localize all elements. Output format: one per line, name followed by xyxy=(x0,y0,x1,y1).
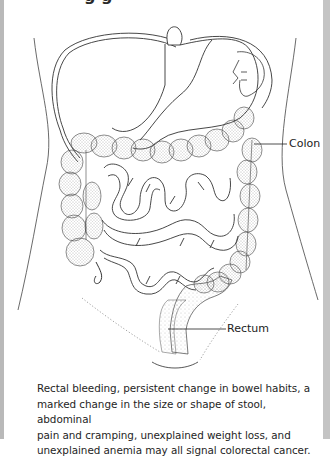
rectum-label: Rectum xyxy=(227,323,269,334)
caption-line: unexplained anemia may all signal colore… xyxy=(37,443,321,459)
digestive-system-illustration xyxy=(4,0,323,372)
pelvic-floor-curve xyxy=(152,362,198,368)
caption-line: Rectal bleeding, persistent change in bo… xyxy=(37,381,321,397)
page-frame-right-border xyxy=(323,0,330,439)
sigmoid-colon xyxy=(170,276,232,354)
gallbladder xyxy=(167,27,182,45)
transverse-colon xyxy=(71,107,254,163)
ascending-colon xyxy=(59,150,103,266)
appendix xyxy=(94,262,101,284)
descending-colon xyxy=(194,138,262,293)
spleen xyxy=(233,52,264,97)
caption-line: pain and cramping, unexplained weight lo… xyxy=(37,428,321,444)
figure-caption: Rectal bleeding, persistent change in bo… xyxy=(37,381,321,459)
colon-label: Colon xyxy=(289,138,320,149)
stomach xyxy=(133,36,272,149)
caption-line: marked change in the size or shape of st… xyxy=(37,397,321,428)
torso-outline xyxy=(18,38,318,310)
